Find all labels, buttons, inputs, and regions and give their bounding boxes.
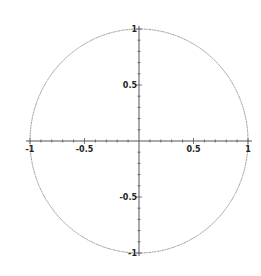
axes [26,26,252,256]
y-tick-label: -1 [128,249,137,258]
x-tick-label: 0.5 [186,145,201,154]
x-tick-label: -0.5 [76,145,94,154]
x-tick-label: 1 [245,145,251,154]
y-tick-label: 0.5 [123,81,138,90]
y-tick-label: 1 [131,25,137,34]
x-tick-label: -1 [26,145,35,154]
y-tick-label: -0.5 [120,193,138,202]
unit-circle-chart: -1-0.50.51-1-0.50.51 [0,0,261,276]
